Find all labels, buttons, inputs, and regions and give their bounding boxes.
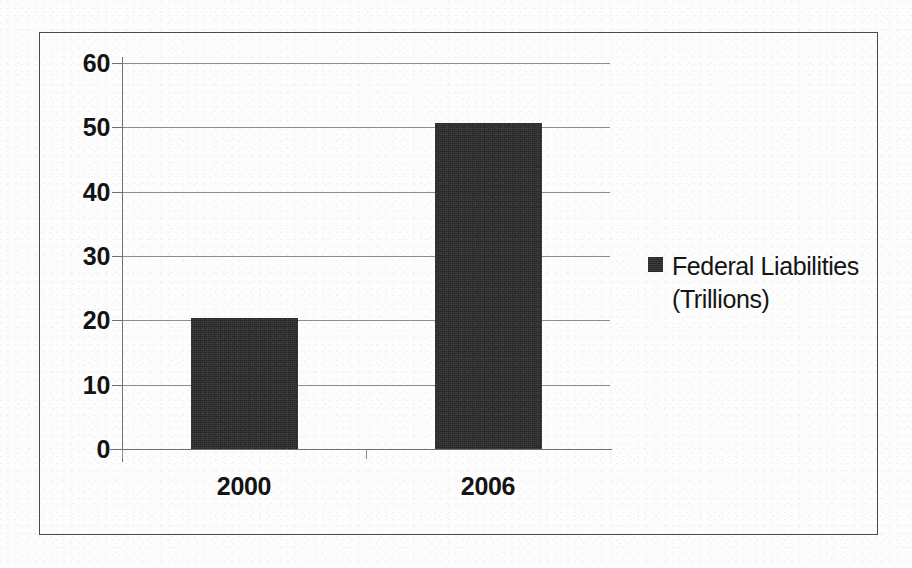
x-tick-mark-origin bbox=[122, 449, 123, 459]
y-tick-mark-20 bbox=[112, 320, 122, 321]
y-axis-line bbox=[122, 57, 123, 462]
y-axis-label-50: 50 bbox=[50, 115, 110, 140]
legend-label-line-2: (Trillions) bbox=[672, 283, 859, 316]
x-axis-label-2006: 2006 bbox=[408, 472, 568, 501]
legend-swatch-icon bbox=[648, 257, 663, 272]
x-tick-mark-1 bbox=[366, 449, 367, 459]
y-tick-mark-50 bbox=[112, 127, 122, 128]
scan-canvas: 0102030405060 20002006 Federal Liabiliti… bbox=[0, 0, 912, 568]
legend-entry-federal-liabilities: Federal Liabilities (Trillions) bbox=[648, 250, 863, 316]
y-axis-label-60: 60 bbox=[50, 51, 110, 76]
x-axis-line bbox=[110, 449, 612, 450]
bar-2006 bbox=[435, 123, 542, 449]
y-axis-label-10: 10 bbox=[50, 372, 110, 397]
bar-2000 bbox=[191, 318, 298, 449]
legend-entry-label: Federal Liabilities (Trillions) bbox=[672, 250, 859, 316]
y-tick-mark-0 bbox=[112, 449, 122, 450]
x-axis-label-2000: 2000 bbox=[164, 472, 324, 501]
y-axis-label-40: 40 bbox=[50, 179, 110, 204]
legend-label-line-1: Federal Liabilities bbox=[672, 252, 859, 280]
y-axis-label-0: 0 bbox=[50, 437, 110, 462]
gridline-y-60 bbox=[122, 63, 610, 64]
y-tick-mark-40 bbox=[112, 192, 122, 193]
y-axis-tick-labels: 0102030405060 bbox=[40, 0, 110, 568]
y-tick-mark-60 bbox=[112, 63, 122, 64]
y-tick-mark-30 bbox=[112, 256, 122, 257]
y-axis-label-20: 20 bbox=[50, 308, 110, 333]
chart-legend: Federal Liabilities (Trillions) bbox=[648, 250, 863, 316]
y-tick-mark-10 bbox=[112, 385, 122, 386]
y-axis-label-30: 30 bbox=[50, 244, 110, 269]
